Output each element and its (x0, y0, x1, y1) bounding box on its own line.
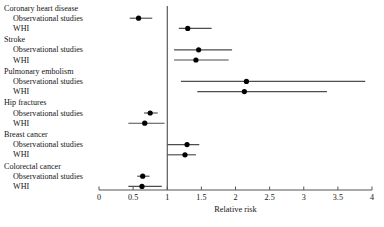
x-axis-tick-label: 1.5 (196, 193, 206, 202)
forest-row (181, 79, 365, 84)
forest-row (167, 142, 199, 147)
point-estimate-marker (136, 16, 141, 21)
x-axis-tick-label: 2 (233, 193, 237, 202)
forest-row (144, 110, 158, 115)
forest-row (197, 89, 327, 94)
x-axis-tick-label: 2.5 (265, 193, 275, 202)
forest-row (130, 16, 153, 21)
point-estimate-marker (184, 142, 189, 147)
point-estimate-marker (196, 47, 201, 52)
point-estimate-marker (182, 152, 187, 157)
forest-row (137, 174, 149, 179)
point-estimate-marker (148, 110, 153, 115)
forest-row (174, 57, 229, 62)
point-estimate-marker (142, 121, 147, 126)
x-axis-tick-label: 1 (165, 193, 169, 202)
x-axis-tick-label: 0 (97, 193, 101, 202)
forest-row (167, 152, 196, 157)
point-estimate-marker (244, 79, 249, 84)
point-estimate-marker (140, 174, 145, 179)
x-axis-tick-label: 0.5 (128, 193, 138, 202)
point-estimate-marker (185, 26, 190, 31)
point-estimate-marker (139, 184, 144, 189)
forest-plot-canvas (0, 0, 384, 227)
forest-row (128, 121, 164, 126)
point-estimate-marker (242, 89, 247, 94)
x-axis-title: Relative risk (214, 205, 257, 214)
point-estimate-marker (193, 57, 198, 62)
forest-plot-figure: Coronary heart diseaseObservational stud… (0, 0, 384, 227)
x-axis-tick-label: 3.5 (333, 193, 343, 202)
x-axis-tick-label: 3 (302, 193, 306, 202)
x-axis-tick-label: 4 (370, 193, 374, 202)
forest-row (179, 26, 212, 31)
forest-row (174, 47, 232, 52)
